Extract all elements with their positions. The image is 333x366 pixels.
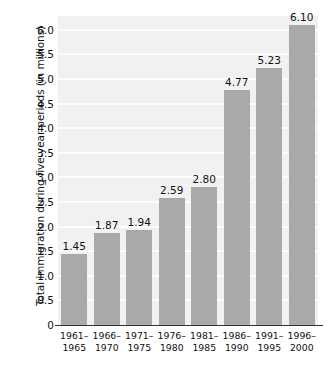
y-axis-tick-label: 1.5 <box>20 246 54 256</box>
x-axis-tick-label-line: 1991– <box>251 330 287 342</box>
y-axis-tick-label: 3.5 <box>20 148 54 158</box>
x-axis-tick-label-line: 2000 <box>284 342 320 354</box>
x-axis-tick-label: 1991–1995 <box>251 330 287 353</box>
bar-value-label: 2.80 <box>184 174 224 185</box>
x-axis-tick-label-line: 1985 <box>186 342 222 354</box>
x-axis-tick-label: 1981–1985 <box>186 330 222 353</box>
x-axis-tick-label: 1966–1970 <box>89 330 125 353</box>
y-axis-tick-label: 2.5 <box>20 197 54 207</box>
y-axis-tick-label: 5.0 <box>20 74 54 84</box>
x-axis-tick-label: 1961–1965 <box>56 330 92 353</box>
bar-value-label: 4.77 <box>217 77 257 88</box>
bar-value-label: 5.23 <box>249 55 289 66</box>
x-axis-tick-label: 1976–1980 <box>154 330 190 353</box>
bar-value-label: 6.10 <box>282 12 322 23</box>
x-axis-tick-label-line: 1966– <box>89 330 125 342</box>
x-axis-tick-label-line: 1970 <box>89 342 125 354</box>
x-axis-tick-label-line: 1990 <box>219 342 255 354</box>
x-axis-tick-label-line: 1965 <box>56 342 92 354</box>
y-axis-tick-label: 2.0 <box>20 222 54 232</box>
y-axis-tick-label: 1.0 <box>20 271 54 281</box>
y-axis-tick-label: 6.0 <box>20 25 54 35</box>
x-axis-tick-label-line: 1961– <box>56 330 92 342</box>
bar-value-label: 2.59 <box>152 185 192 196</box>
bar-value-label: 1.94 <box>119 217 159 228</box>
y-axis-tick-label: 0 <box>20 320 54 330</box>
x-axis-tick-label-line: 1975 <box>121 342 157 354</box>
x-axis-tick-label-line: 1971– <box>121 330 157 342</box>
x-axis-tick-label: 1986–1990 <box>219 330 255 353</box>
y-axis-tick-label: 0.5 <box>20 295 54 305</box>
y-axis-tick-label: 5.5 <box>20 49 54 59</box>
y-axis-tick-label: 3.0 <box>20 172 54 182</box>
x-axis-tick-label: 1971–1975 <box>121 330 157 353</box>
immigration-bar-chart: Total immigration during five-year perio… <box>0 0 333 366</box>
y-axis-tick-label: 4.5 <box>20 99 54 109</box>
bar-value-labels: 1.451.871.942.592.804.775.236.10 <box>58 16 318 325</box>
x-axis-tick-label-line: 1986– <box>219 330 255 342</box>
x-axis-tick-label-line: 1981– <box>186 330 222 342</box>
x-axis-tick-label-line: 1980 <box>154 342 190 354</box>
x-axis-tick-labels: 1961–19651966–19701971–19751976–19801981… <box>58 330 318 362</box>
x-axis-tick-label: 1996–2000 <box>284 330 320 353</box>
y-axis-tick-labels: 00.51.01.52.02.53.03.54.04.55.05.56.0 <box>20 0 54 366</box>
x-axis-tick-label-line: 1996– <box>284 330 320 342</box>
x-axis-line <box>55 325 323 326</box>
x-axis-tick-label-line: 1976– <box>154 330 190 342</box>
y-axis-tick-label: 4.0 <box>20 123 54 133</box>
x-axis-tick-label-line: 1995 <box>251 342 287 354</box>
bar-value-label: 1.45 <box>54 241 94 252</box>
